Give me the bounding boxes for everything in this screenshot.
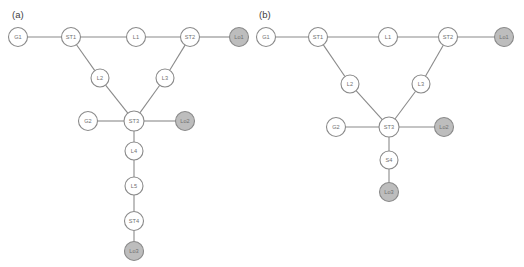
node-Lo2[interactable]: Lo2 — [435, 118, 454, 137]
node-label-L1: L1 — [385, 34, 391, 40]
edge-ST2-L3 — [170, 45, 185, 70]
node-L1[interactable]: L1 — [379, 28, 398, 47]
edge-ST1-L2 — [323, 45, 345, 77]
node-L2[interactable]: L2 — [91, 69, 109, 87]
node-label-Lo1: Lo1 — [234, 34, 244, 40]
node-ST3[interactable]: ST3 — [379, 117, 399, 137]
node-label-L4: L4 — [131, 148, 137, 154]
node-label-L2: L2 — [97, 75, 103, 81]
node-Lo2[interactable]: Lo2 — [176, 112, 195, 131]
node-label-Lo3: Lo3 — [129, 248, 139, 254]
node-label-Lo1: Lo1 — [499, 34, 509, 40]
node-G2[interactable]: G2 — [79, 112, 98, 131]
node-label-ST1: ST1 — [313, 34, 324, 40]
node-L5[interactable]: L5 — [125, 177, 143, 195]
node-L4[interactable]: L4 — [125, 142, 143, 160]
node-label-L5: L5 — [131, 183, 137, 189]
node-S4[interactable]: S4 — [380, 151, 398, 169]
node-ST4[interactable]: ST4 — [125, 212, 144, 231]
node-label-ST2: ST2 — [443, 34, 454, 40]
node-L3[interactable]: L3 — [156, 69, 174, 87]
node-label-ST2: ST2 — [185, 34, 196, 40]
node-L2[interactable]: L2 — [341, 75, 359, 93]
panel-b: G1ST1L1ST2Lo1L2L3G2ST3Lo2S4Lo3(b) — [257, 9, 514, 202]
node-label-L3: L3 — [418, 81, 424, 87]
node-label-ST1: ST1 — [66, 34, 77, 40]
node-Lo1[interactable]: Lo1 — [495, 28, 514, 47]
node-Lo1[interactable]: Lo1 — [230, 28, 249, 47]
edge-L3-ST3 — [140, 85, 160, 113]
node-label-G2: G2 — [84, 118, 92, 124]
edge-ST2-L3 — [425, 45, 443, 76]
edge-L2-ST3 — [106, 85, 128, 113]
node-L3[interactable]: L3 — [412, 75, 430, 93]
panel-b-caption: (b) — [259, 9, 271, 20]
node-ST3[interactable]: ST3 — [124, 111, 144, 131]
node-ST1[interactable]: ST1 — [62, 28, 81, 47]
node-label-ST3: ST3 — [129, 118, 140, 124]
panel-a-edges — [28, 37, 230, 242]
node-ST2[interactable]: ST2 — [439, 28, 458, 47]
node-ST2[interactable]: ST2 — [181, 28, 200, 47]
diagram-canvas: G1ST1L1ST2Lo1L2L3G2ST3Lo2L4L5ST4Lo3(a)G1… — [0, 0, 524, 267]
node-label-S4: S4 — [385, 157, 392, 163]
node-label-L3: L3 — [162, 75, 168, 81]
node-label-G2: G2 — [332, 124, 340, 130]
node-label-ST4: ST4 — [129, 218, 140, 224]
node-label-L2: L2 — [347, 81, 353, 87]
node-L1[interactable]: L1 — [127, 28, 146, 47]
node-label-G1: G1 — [14, 34, 22, 40]
node-Lo3[interactable]: Lo3 — [380, 183, 399, 202]
node-label-Lo2: Lo2 — [180, 118, 190, 124]
node-label-G1: G1 — [262, 34, 270, 40]
edge-L3-ST3 — [395, 91, 416, 119]
node-Lo3[interactable]: Lo3 — [125, 242, 144, 261]
node-label-L1: L1 — [133, 34, 139, 40]
node-G1[interactable]: G1 — [9, 28, 28, 47]
node-label-Lo2: Lo2 — [439, 124, 449, 130]
network-diagram-figure: G1ST1L1ST2Lo1L2L3G2ST3Lo2L4L5ST4Lo3(a)G1… — [0, 0, 524, 267]
edge-L2-ST3 — [356, 91, 382, 120]
node-G2[interactable]: G2 — [327, 118, 346, 137]
panel-a-caption: (a) — [12, 9, 24, 20]
node-label-ST3: ST3 — [384, 124, 395, 130]
node-G1[interactable]: G1 — [257, 28, 276, 47]
panel-a: G1ST1L1ST2Lo1L2L3G2ST3Lo2L4L5ST4Lo3(a) — [9, 9, 249, 261]
edge-ST1-L2 — [76, 45, 94, 71]
node-ST1[interactable]: ST1 — [309, 28, 328, 47]
node-label-Lo3: Lo3 — [384, 189, 394, 195]
